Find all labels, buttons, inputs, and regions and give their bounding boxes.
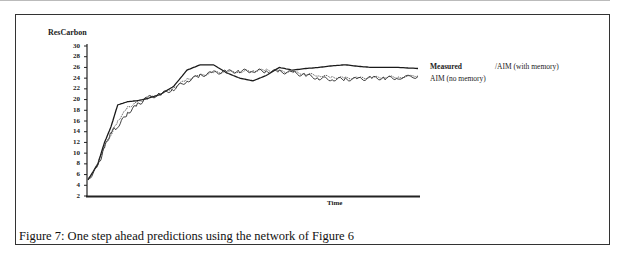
series-line-measured (88, 65, 418, 180)
figure-caption: Figure 7: One step ahead predictions usi… (19, 229, 354, 244)
legend-measured: Measured (430, 62, 462, 71)
series-line-aim-with-memory (88, 69, 418, 179)
legend-aim-no-memory: AIM (no memory) (430, 74, 486, 83)
legend-aim-with-memory: /AIM (with memory) (495, 62, 559, 71)
x-axis-label: Time (327, 199, 342, 207)
chart-series (88, 65, 418, 180)
line-chart (0, 0, 632, 254)
series-line-aim-no-memory (88, 69, 418, 178)
